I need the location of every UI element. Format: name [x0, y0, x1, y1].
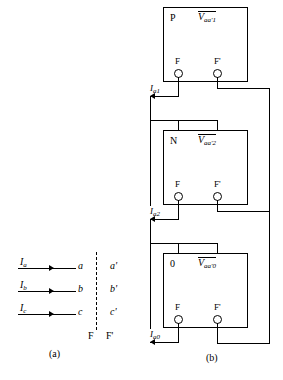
fault-plane-dashed-line [96, 252, 97, 330]
row-a-node-right: a' [110, 260, 117, 271]
zero-sequence-id-label: 0 [170, 258, 175, 269]
positive-sequence-lead-F-down [178, 77, 179, 96]
zero-sequence-feed-top [150, 243, 218, 244]
positive-sequence-current-label: Ia1 [150, 83, 160, 95]
negative-sequence-current-label: Ia2 [150, 206, 160, 218]
row-c-current-label: Ic [20, 302, 26, 315]
positive-sequence-id-label: P [170, 12, 176, 23]
row-a-node-left: a [78, 260, 83, 271]
part-a-plane-label-F: F [88, 330, 94, 341]
zero-sequence-voltage-label: Vaa'0 [198, 257, 216, 270]
positive-sequence-lead-Fprime-down [217, 77, 218, 88]
zero-sequence-current-label: Ia0 [150, 329, 160, 341]
row-c-lead-right [58, 314, 76, 315]
positive-sequence-voltage-label: Vaa'1 [198, 11, 216, 24]
row-b-arrowhead [49, 288, 54, 294]
negative-sequence-left-bus [150, 219, 151, 329]
row-b-current-label: Ib [20, 279, 27, 292]
row-c-arrowhead [49, 311, 54, 317]
row-a-current-label: Ia [20, 256, 27, 269]
row-a-arrowhead [49, 265, 54, 271]
zero-sequence-lead-Fprime-up [217, 243, 218, 253]
negative-sequence-voltage-label: Vaa'2 [198, 134, 216, 147]
positive-to-right-bus-top [217, 88, 270, 89]
zero-sequence-lead-Fprime-down [217, 323, 218, 343]
zero-to-right-bus-bottom [217, 343, 270, 344]
right-bus-vertical-upper [269, 88, 270, 220]
negative-sequence-feed-top [150, 120, 218, 121]
part-a-plane-label-Fprime: F' [106, 330, 113, 341]
part-b-caption: (b) [206, 352, 218, 363]
negative-sequence-lead-Fprime-down [217, 200, 218, 211]
positive-sequence-terminal-label-F: F [175, 56, 180, 66]
row-b-node-right: b' [110, 283, 117, 294]
row-c-node-right: c' [110, 306, 117, 317]
figure-canvas: Ia a a' Ib b b' Ic c c' F F' (a) P Vaa'1… [0, 0, 283, 380]
row-b-lead-right [58, 291, 76, 292]
row-c-node-left: c [78, 306, 82, 317]
positive-sequence-terminal-label-Fprime: F' [214, 56, 221, 66]
zero-sequence-terminal-label-Fprime: F' [214, 302, 221, 312]
row-a-lead-right [58, 268, 76, 269]
right-bus-vertical-lower [269, 211, 270, 343]
negative-sequence-lead-F-down [178, 200, 179, 219]
negative-sequence-id-label: N [170, 135, 177, 146]
zero-sequence-lead-F-up [178, 243, 179, 253]
zero-sequence-terminal-label-F: F [175, 302, 180, 312]
part-a-caption: (a) [49, 348, 60, 359]
positive-sequence-left-bus [150, 96, 151, 206]
negative-to-right-bus [217, 211, 270, 212]
zero-sequence-lead-F-down [178, 323, 179, 342]
row-b-node-left: b [78, 283, 83, 294]
negative-sequence-terminal-label-Fprime: F' [214, 179, 221, 189]
negative-sequence-lead-Fprime-up [217, 120, 218, 130]
negative-sequence-lead-F-up [178, 120, 179, 130]
negative-sequence-terminal-label-F: F [175, 179, 180, 189]
